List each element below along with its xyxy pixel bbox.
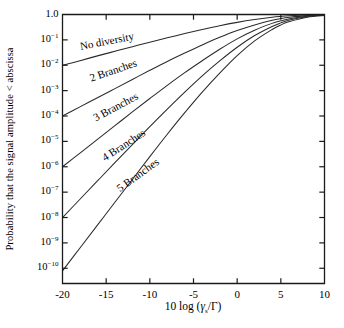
x-axis-label-text: 10 log (γs/Γ) bbox=[165, 300, 222, 312]
y-tick-label-0: 1.0 bbox=[45, 9, 58, 20]
x-tick-label-1: -15 bbox=[88, 289, 124, 300]
y-tick-label-10: 10−10 bbox=[37, 262, 58, 273]
y-tick-label-7: 10−7 bbox=[41, 186, 59, 197]
x-tick-label-5: 5 bbox=[263, 289, 299, 300]
y-tick-label-2: 10−2 bbox=[41, 59, 59, 70]
x-tick-label-4: 0 bbox=[219, 289, 255, 300]
x-tick-label-6: 10 bbox=[307, 289, 343, 300]
y-tick-label-8: 10−8 bbox=[41, 212, 59, 223]
x-axis-label: 10 log (γs/Γ) bbox=[62, 300, 324, 315]
y-tick-label-3: 10−3 bbox=[41, 85, 59, 96]
curves-group bbox=[63, 15, 325, 271]
x-tick-label-2: -10 bbox=[132, 289, 168, 300]
curve-2 bbox=[63, 15, 325, 116]
x-tick-label-3: -5 bbox=[176, 289, 212, 300]
y-tick-label-6: 10−6 bbox=[41, 161, 59, 172]
x-tick-label-0: -20 bbox=[45, 289, 81, 300]
curve-5 bbox=[63, 16, 325, 271]
y-tick-label-4: 10−4 bbox=[41, 110, 59, 121]
y-tick-label-1: 10−1 bbox=[41, 34, 59, 45]
figure-container: Probability that the signal amplitude < … bbox=[0, 0, 344, 328]
y-tick-label-5: 10−5 bbox=[41, 135, 59, 146]
y-tick-label-9: 10−9 bbox=[41, 237, 59, 248]
